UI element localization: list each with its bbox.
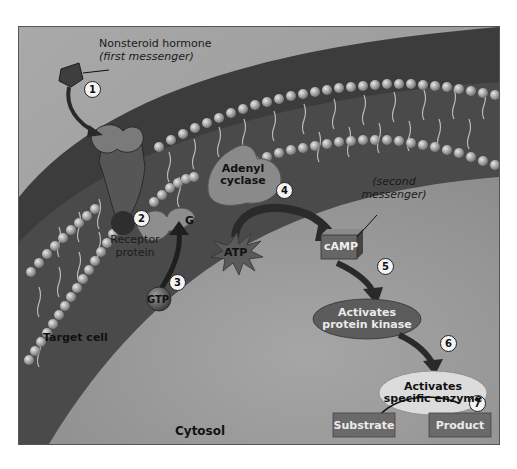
step-1-badge: 1	[84, 81, 101, 98]
specific-enzyme-label: Activates specific enzyme	[379, 381, 487, 405]
step-6-badge: 6	[440, 335, 457, 352]
camp-label: cAMP	[324, 241, 358, 253]
substrate-label: Substrate	[333, 420, 395, 432]
receptor-line-1: Receptor	[105, 233, 165, 246]
second-line-1: (second	[354, 175, 434, 188]
step-5-badge: 5	[377, 258, 394, 275]
hormone-label: Nonsteroid hormone	[99, 37, 212, 50]
kinase-line-2: protein kinase	[313, 319, 421, 331]
adenyl-line-2: cyclase	[215, 175, 271, 187]
product-label: Product	[429, 420, 491, 432]
first-messenger-label: (first messenger)	[99, 50, 194, 63]
diagram-frame: Nonsteroid hormone (first messenger) 1 2…	[18, 26, 500, 445]
step-4-badge: 4	[276, 182, 293, 199]
receptor-line-2: protein	[105, 246, 165, 259]
second-messenger-label: (second messenger)	[354, 175, 434, 201]
g-protein-label: G	[185, 215, 194, 227]
protein-kinase-label: Activates protein kinase	[313, 307, 421, 331]
cytosol-label: Cytosol	[175, 425, 225, 437]
gtp-label: GTP	[147, 294, 169, 306]
adenyl-cyclase-label: Adenyl cyclase	[215, 163, 271, 187]
step-2-badge: 2	[133, 210, 150, 227]
enzyme-line-2: specific enzyme	[379, 393, 487, 405]
atp-label: ATP	[224, 247, 247, 259]
second-line-2: messenger)	[354, 188, 434, 201]
target-cell-label: Target cell	[43, 332, 108, 344]
receptor-protein-label: Receptor protein	[105, 233, 165, 259]
step-3-badge: 3	[169, 274, 186, 291]
